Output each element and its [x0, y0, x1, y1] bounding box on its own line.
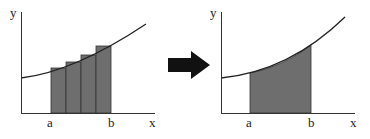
- right-b-label: b: [308, 115, 315, 130]
- rectangle-1: [51, 68, 66, 113]
- rectangle-4: [96, 46, 111, 113]
- left-panel: y a b x: [10, 5, 156, 130]
- right-a-label: a: [246, 115, 252, 130]
- area-under-curve: [250, 45, 311, 113]
- riemann-rectangles: [51, 46, 111, 113]
- riemann-diagram: y a b x y a b x: [0, 0, 370, 139]
- left-y-label: y: [10, 5, 17, 20]
- rectangle-2: [66, 62, 81, 113]
- rectangle-3: [81, 55, 96, 113]
- left-a-label: a: [47, 115, 53, 130]
- right-arrow-icon: [168, 51, 210, 79]
- right-panel: y a b x: [210, 5, 357, 130]
- left-x-label: x: [149, 115, 156, 130]
- left-b-label: b: [108, 115, 115, 130]
- right-x-label: x: [350, 115, 357, 130]
- right-y-label: y: [210, 5, 217, 20]
